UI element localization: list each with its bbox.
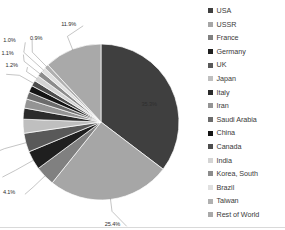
legend-item[interactable]: USA bbox=[208, 4, 285, 18]
legend-item[interactable]: Iran bbox=[208, 99, 285, 113]
legend-item-label: Rest of World bbox=[217, 208, 260, 222]
label-leader-line bbox=[25, 175, 46, 194]
legend-swatch-icon bbox=[208, 144, 213, 149]
legend-item-label: Brazil bbox=[217, 181, 235, 195]
legend-swatch-icon bbox=[208, 131, 213, 136]
slice-percentage-label: 4.1% bbox=[3, 189, 15, 195]
label-leader-line bbox=[32, 40, 47, 67]
legend-item-label: Italy bbox=[217, 86, 230, 100]
legend-item-label: India bbox=[217, 154, 232, 168]
legend-item-label: Canada bbox=[217, 140, 242, 154]
legend-item-label: USA bbox=[217, 4, 232, 18]
bottom-divider bbox=[0, 227, 285, 228]
pie-plot-area: 35.3%25.4%4.1%3.9%3.9%2.9%2.3%1.9%1.5%1.… bbox=[0, 0, 200, 230]
label-leader-line bbox=[23, 55, 40, 75]
legend-item-label: Taiwan bbox=[217, 194, 239, 208]
legend-swatch-icon bbox=[208, 212, 213, 217]
legend-item-label: Korea, South bbox=[217, 167, 258, 181]
legend-item-label: Iran bbox=[217, 99, 229, 113]
legend-item[interactable]: Rest of World bbox=[208, 208, 285, 222]
legend-item[interactable]: USSR bbox=[208, 18, 285, 32]
slice-percentage-label: 1.0% bbox=[3, 37, 15, 43]
label-leader-line bbox=[24, 42, 44, 70]
legend-swatch-icon bbox=[208, 90, 213, 95]
label-leader-line bbox=[6, 74, 34, 83]
legend-swatch-icon bbox=[208, 35, 213, 40]
legend-item-label: UK bbox=[217, 58, 227, 72]
legend-swatch-icon bbox=[208, 49, 213, 54]
label-leader-line bbox=[2, 160, 34, 177]
legend-item[interactable]: Canada bbox=[208, 140, 285, 154]
pie-chart-figure: 35.3%25.4%4.1%3.9%3.9%2.9%2.3%1.9%1.5%1.… bbox=[0, 0, 285, 230]
legend-item[interactable]: France bbox=[208, 31, 285, 45]
legend-item-label: Germany bbox=[217, 45, 246, 59]
legend-item[interactable]: Germany bbox=[208, 45, 285, 59]
legend-item[interactable]: UK bbox=[208, 58, 285, 72]
slice-percentage-label: 1.1% bbox=[1, 50, 13, 56]
legend-item[interactable]: Korea, South bbox=[208, 167, 285, 181]
legend-item-label: Japan bbox=[217, 72, 236, 86]
legend-item-label: Saudi Arabia bbox=[217, 113, 257, 127]
legend-item[interactable]: Brazil bbox=[208, 181, 285, 195]
legend-swatch-icon bbox=[208, 76, 213, 81]
slice-percentage-label: 11.9% bbox=[61, 21, 76, 27]
slice-percentage-label: 0.9% bbox=[30, 35, 42, 41]
legend-item[interactable]: Italy bbox=[208, 86, 285, 100]
legend-swatch-icon bbox=[208, 103, 213, 108]
slice-percentage-label: 35.3% bbox=[142, 101, 157, 107]
legend-swatch-icon bbox=[208, 199, 213, 204]
legend-item-label: France bbox=[217, 31, 239, 45]
chart-legend: USAUSSRFranceGermanyUKJapanItalyIranSaud… bbox=[208, 4, 285, 226]
legend-item[interactable]: India bbox=[208, 154, 285, 168]
legend-item-label: USSR bbox=[217, 18, 237, 32]
label-leader-line bbox=[0, 143, 27, 155]
legend-swatch-icon bbox=[208, 22, 213, 27]
label-leader-line bbox=[27, 67, 38, 79]
legend-swatch-icon bbox=[208, 63, 213, 68]
legend-item[interactable]: Japan bbox=[208, 72, 285, 86]
legend-swatch-icon bbox=[208, 158, 213, 163]
legend-item[interactable]: Taiwan bbox=[208, 194, 285, 208]
legend-swatch-icon bbox=[208, 117, 213, 122]
legend-item[interactable]: Saudi Arabia bbox=[208, 113, 285, 127]
legend-swatch-icon bbox=[208, 185, 213, 190]
pie-slices bbox=[23, 44, 179, 200]
legend-swatch-icon bbox=[208, 171, 213, 176]
legend-item-label: China bbox=[217, 126, 236, 140]
slice-percentage-label: 1.2% bbox=[6, 62, 18, 68]
legend-swatch-icon bbox=[208, 8, 213, 13]
legend-item[interactable]: China bbox=[208, 126, 285, 140]
